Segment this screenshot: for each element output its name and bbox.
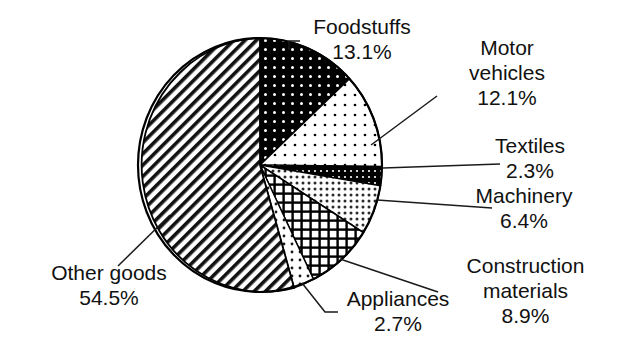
- slice-label-foodstuffs-name: Foodstuffs: [313, 15, 411, 38]
- slice-label-other-goods-value: 54.5%: [14, 285, 204, 310]
- slice-label-motor-vehicles-name-line2: vehicles: [442, 60, 572, 85]
- slice-label-construction-materials-name-line1: Construction: [467, 254, 585, 277]
- slice-label-motor-vehicles-value: 12.1%: [442, 85, 572, 110]
- slice-label-other-goods: Other goods 54.5%: [14, 260, 204, 310]
- slice-label-motor-vehicles: Motor vehicles 12.1%: [442, 35, 572, 110]
- slice-label-textiles-name: Textiles: [495, 134, 565, 157]
- slice-label-appliances: Appliances 2.7%: [328, 286, 468, 336]
- slice-label-appliances-value: 2.7%: [328, 311, 468, 336]
- leader-line-motor-vehicles: [371, 96, 437, 145]
- slice-label-machinery-name: Machinery: [476, 184, 573, 207]
- slice-label-foodstuffs-value: 13.1%: [292, 39, 432, 64]
- pie-slices: [138, 38, 382, 292]
- slice-label-other-goods-name: Other goods: [51, 261, 167, 284]
- slice-label-foodstuffs: Foodstuffs 13.1%: [292, 14, 432, 64]
- slice-label-textiles: Textiles 2.3%: [455, 133, 605, 183]
- slice-label-textiles-value: 2.3%: [455, 158, 605, 183]
- slice-label-machinery: Machinery 6.4%: [443, 183, 605, 233]
- slice-label-machinery-value: 6.4%: [443, 208, 605, 233]
- slice-label-motor-vehicles-name-line1: Motor: [480, 36, 534, 59]
- pie-chart: Foodstuffs 13.1% Motor vehicles 12.1% Te…: [0, 0, 618, 362]
- slice-label-appliances-name: Appliances: [347, 287, 450, 310]
